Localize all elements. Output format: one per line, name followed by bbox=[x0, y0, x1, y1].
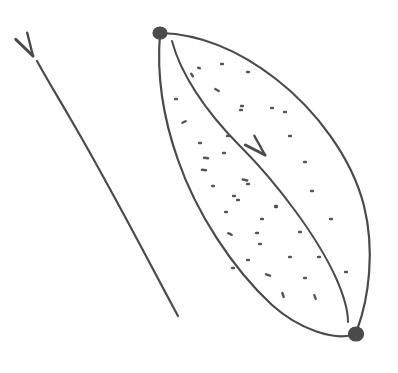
stipple-mark bbox=[228, 233, 231, 235]
figure-canvas bbox=[0, 0, 398, 373]
stipple-mark bbox=[282, 293, 283, 297]
stipple-mark bbox=[198, 68, 200, 69]
stipple-mark bbox=[243, 180, 247, 181]
bottom-vertex bbox=[349, 327, 364, 341]
stipple-mark bbox=[266, 274, 270, 275]
hand-drawn-diagram bbox=[0, 0, 398, 373]
canvas-background bbox=[0, 0, 398, 373]
stipple-mark bbox=[204, 158, 208, 159]
stipple-mark bbox=[191, 74, 193, 76]
stipple-mark bbox=[182, 121, 185, 123]
top-vertex bbox=[153, 27, 167, 39]
stipple-mark bbox=[314, 295, 315, 299]
